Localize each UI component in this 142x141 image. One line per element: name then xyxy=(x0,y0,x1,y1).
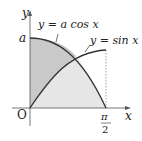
y-axis-label: y xyxy=(21,6,29,20)
a-label: a xyxy=(19,31,26,45)
diagram: y x O a π 2 y = a cos x y = sin x xyxy=(0,0,142,141)
sin-curve-label: y = sin x xyxy=(89,34,139,47)
pi-label: π xyxy=(100,111,108,122)
cos-leader xyxy=(56,34,58,42)
cos-curve-label: y = a cos x xyxy=(37,18,99,31)
two-label: 2 xyxy=(102,124,108,135)
origin-label: O xyxy=(17,108,27,122)
graph: y x O a π 2 y = a cos x y = sin x xyxy=(0,0,142,141)
x-axis-label: x xyxy=(125,109,132,123)
